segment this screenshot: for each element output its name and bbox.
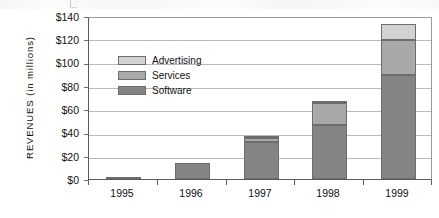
y-tick-label: $100 (0, 58, 84, 68)
x-tick-label-1998: 1998 (316, 187, 339, 199)
bar-segment-services-1998 (312, 103, 347, 125)
x-tick-mark (157, 180, 158, 185)
bar-segment-software-1995 (106, 177, 141, 179)
legend-item-services: Services (118, 69, 201, 81)
y-tick-label: $40 (0, 128, 84, 138)
legend-swatch-services-icon (118, 71, 146, 80)
bar-group-1998 (312, 102, 347, 179)
y-tick-label: $20 (0, 152, 84, 162)
x-tick-label-1997: 1997 (248, 187, 271, 199)
x-tick-mark (226, 180, 227, 185)
bar-group-1999 (381, 24, 416, 179)
x-tick-mark (88, 180, 89, 185)
bar-group-1997 (244, 136, 279, 179)
x-tick-mark (431, 180, 432, 185)
bar-segment-services-1999 (381, 40, 416, 75)
legend-label: Software (152, 85, 191, 96)
x-tick-mark (294, 180, 295, 185)
bar-segment-advertising-1997 (244, 136, 279, 138)
x-tick-label-1996: 1996 (179, 187, 202, 199)
revenues-stacked-bar-chart: REVENUES (in millions) $140 $120 $100 $8… (0, 0, 439, 218)
x-tick-label-1999: 1999 (385, 187, 408, 199)
y-tick-label: $140 (0, 12, 84, 22)
y-tick-label: $80 (0, 82, 84, 92)
legend-item-software: Software (118, 84, 201, 96)
legend-label: Services (152, 70, 190, 81)
legend-item-advertising: Advertising (118, 54, 201, 66)
bar-segment-software-1999 (381, 75, 416, 179)
y-axis-tick-labels: $140 $120 $100 $80 $60 $40 $20 $0 (0, 0, 84, 218)
bar-segment-advertising-1998 (312, 101, 347, 103)
x-axis: 1995 1996 1997 1998 1999 (88, 180, 432, 210)
bar-segment-advertising-1999 (381, 24, 416, 40)
legend-label: Advertising (152, 55, 201, 66)
bar-group-1996 (175, 163, 210, 179)
bar-segment-software-1998 (312, 125, 347, 179)
bar-segment-software-1996 (175, 163, 210, 179)
bar-segment-services-1997 (244, 138, 279, 141)
y-tick-label: $60 (0, 105, 84, 115)
chart-legend: Advertising Services Software (118, 54, 201, 99)
bar-segment-software-1997 (244, 142, 279, 179)
x-tick-label-1995: 1995 (110, 187, 133, 199)
bar-group-1995 (106, 177, 141, 179)
x-tick-mark (363, 180, 364, 185)
legend-swatch-software-icon (118, 86, 146, 95)
y-tick-label: $120 (0, 35, 84, 45)
y-tick-label: $0 (0, 175, 84, 185)
legend-swatch-advertising-icon (118, 56, 146, 65)
